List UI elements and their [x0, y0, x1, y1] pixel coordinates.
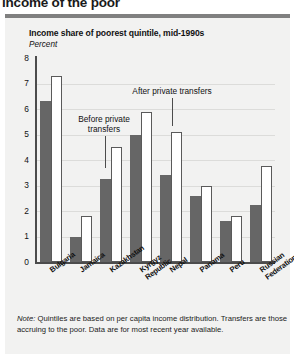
- y-tick-label: 4: [11, 155, 29, 165]
- bar-after-peru: [231, 216, 242, 262]
- chart-note-prefix: Note:: [17, 314, 35, 323]
- annotation-before-line1: Before private: [78, 114, 130, 124]
- y-tick-label: 8: [11, 53, 29, 63]
- bar-after-nepal: [171, 132, 182, 262]
- annotation-before-leader-line: [105, 136, 106, 168]
- bar-before-bulgaria: [40, 101, 51, 262]
- y-tick-label: 3: [11, 180, 29, 190]
- bar-after-kyrgyz-republic: [141, 112, 152, 262]
- y-tick-label: 1: [11, 231, 29, 241]
- page-title: income of the poor: [2, 0, 120, 10]
- plot-area: 012345678 BulgariaJamaicaKazakhstanKyrgy…: [5, 18, 290, 298]
- page-header: income of the poor: [0, 0, 294, 14]
- annotation-before-line2: transfers: [88, 124, 120, 134]
- y-tick-label: 5: [11, 129, 29, 139]
- annotation-before-private-transfers: Before private transfers: [61, 114, 147, 134]
- annotation-after-leader-line: [172, 98, 173, 126]
- bar-before-russian-federation: [250, 205, 261, 262]
- bar-before-panama: [190, 196, 201, 262]
- chart-note: Note: Quintiles are based on per capita …: [17, 314, 289, 335]
- chart-note-body: Quintiles are based on per capita income…: [17, 314, 287, 334]
- y-tick-label: 2: [11, 206, 29, 216]
- bar-after-panama: [201, 186, 212, 263]
- bar-after-russian-federation: [261, 166, 272, 262]
- bar-after-jamaica: [81, 216, 92, 262]
- y-tick-label: 6: [11, 104, 29, 114]
- bar-after-bulgaria: [51, 76, 62, 262]
- annotation-after-line1: After private transfers: [132, 86, 211, 96]
- y-tick-label: 7: [11, 78, 29, 88]
- figure-panel: Income share of poorest quintile, mid-19…: [5, 18, 290, 354]
- annotation-after-private-transfers: After private transfers: [117, 86, 227, 96]
- y-tick-label: 0: [11, 257, 29, 267]
- bar-after-kazakhstan: [111, 147, 122, 262]
